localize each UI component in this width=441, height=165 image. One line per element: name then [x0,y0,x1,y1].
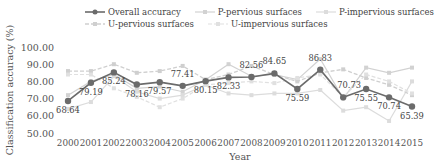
data-label: 82.33 [217,81,241,91]
data-point [341,67,345,71]
data-label: 70.74 [377,101,401,111]
x-tick-label: 2007 [217,138,239,148]
data-point [88,80,94,86]
data-point [387,71,391,75]
x-tick-label: 2001 [80,138,102,148]
data-point [387,119,391,123]
x-tick-label: 2014 [378,138,401,148]
data-label: 86.83 [308,53,332,63]
data-point [134,81,140,87]
plot-area: 50.0060.0070.0080.0090.00100.00200020012… [0,0,441,165]
x-tick-label: 2006 [194,138,217,148]
data-point [202,78,208,84]
data-point [387,83,391,87]
data-point [66,93,70,97]
data-point [341,109,345,113]
y-tick-label: 100.00 [21,42,54,53]
data-point [294,86,300,92]
data-point [227,91,231,95]
data-label: 75.59 [285,93,309,103]
data-point [387,79,391,83]
data-point [158,105,162,109]
x-tick-label: 2009 [263,138,285,148]
data-point [386,94,392,100]
data-label: 79.19 [79,87,103,97]
data-label: 79.57 [148,86,172,96]
x-tick-label: 2008 [240,138,262,148]
x-tick-label: 2004 [149,138,172,148]
data-label: 78.16 [125,89,149,99]
data-point [410,91,414,95]
data-point [65,98,71,104]
data-label: 85.24 [102,76,126,86]
data-point [111,69,117,75]
data-point [112,86,116,90]
data-point [157,79,163,85]
y-tick-label: 90.00 [27,59,54,70]
data-point [318,73,322,77]
data-point [225,74,231,80]
data-point [272,81,276,85]
data-label: 84.65 [263,56,287,66]
data-label: 82.56 [240,60,264,70]
data-point [66,69,70,73]
data-point [340,94,346,100]
data-point [318,88,322,92]
data-point [181,90,185,94]
data-label: 65.39 [400,111,424,121]
data-label: 70.73 [337,80,361,90]
x-tick-label: 2005 [171,138,193,148]
data-point [410,79,414,83]
x-tick-label: 2003 [126,138,148,148]
x-axis-title: Year [228,151,251,162]
data-point [409,103,415,109]
line-chart: Overall accuracy P-pervious surfaces P-i… [0,0,441,165]
y-tick-label: 70.00 [27,93,54,104]
data-point [272,91,276,95]
data-point [181,93,185,97]
data-point [181,64,185,68]
y-tick-label: 60.00 [27,110,54,121]
data-labels: 68.6479.1985.2478.1679.5777.4180.1582.33… [56,53,424,121]
data-point [410,66,414,70]
y-tick-label: 80.00 [27,76,54,87]
data-point [364,105,368,109]
data-point [179,83,185,89]
data-point [158,97,162,101]
data-point [364,66,368,70]
data-point [89,100,93,104]
data-point [181,97,185,101]
data-label: 75.55 [354,93,378,103]
data-point [227,62,231,66]
y-axis-title: Classification accuracy (%) [4,25,15,156]
data-point [295,76,299,80]
data-label: 80.15 [194,85,218,95]
x-tick-label: 2011 [309,138,331,148]
data-point [158,69,162,73]
data-point [112,62,116,66]
data-point [89,73,93,77]
x-tick-label: 2000 [57,138,80,148]
data-point [249,93,253,97]
x-tick-label: 2013 [355,138,377,148]
data-point [295,79,299,83]
x-tick-label: 2010 [286,138,309,148]
data-label: 68.64 [56,105,80,115]
data-point [66,73,70,77]
data-point [135,71,139,75]
data-point [271,70,277,76]
data-label: 77.41 [171,69,195,79]
x-tick-label: 2012 [332,138,354,148]
data-point [248,74,254,80]
x-tick-label: 2002 [103,138,125,148]
data-point [363,86,369,92]
data-point [89,69,93,73]
data-point [364,73,368,77]
data-point [317,66,323,72]
y-tick-label: 50.00 [27,128,54,139]
x-tick-label: 2015 [401,138,423,148]
